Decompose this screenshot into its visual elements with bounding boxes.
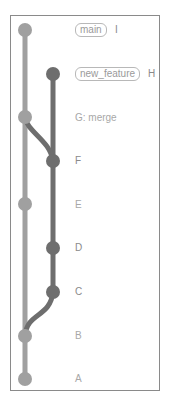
commit-node-C[interactable]	[46, 285, 60, 299]
commit-label-D: D	[75, 242, 82, 254]
merge-edge	[25, 117, 53, 161]
commit-node-A[interactable]	[18, 372, 32, 386]
commit-label-A: A	[75, 373, 82, 385]
commit-graph	[0, 0, 172, 402]
commit-label-E: E	[75, 199, 82, 211]
branch-edge	[25, 292, 53, 336]
commit-node-I[interactable]	[18, 23, 32, 37]
commit-label-F: F	[75, 155, 81, 167]
branch-tag-main[interactable]: main	[75, 23, 107, 37]
branch-tag-new-feature[interactable]: new_feature	[75, 67, 140, 81]
commit-node-F[interactable]	[46, 154, 60, 168]
commit-label-H: H	[148, 68, 155, 80]
commit-label-I: I	[115, 24, 118, 36]
commit-node-D[interactable]	[46, 241, 60, 255]
commit-node-H[interactable]	[46, 67, 60, 81]
commit-node-E[interactable]	[18, 197, 32, 211]
commit-label-B: B	[75, 330, 82, 342]
commit-label-G: G: merge	[75, 112, 117, 124]
commit-node-B[interactable]	[18, 329, 32, 343]
commit-node-G[interactable]	[18, 110, 32, 124]
commit-label-C: C	[75, 286, 82, 298]
